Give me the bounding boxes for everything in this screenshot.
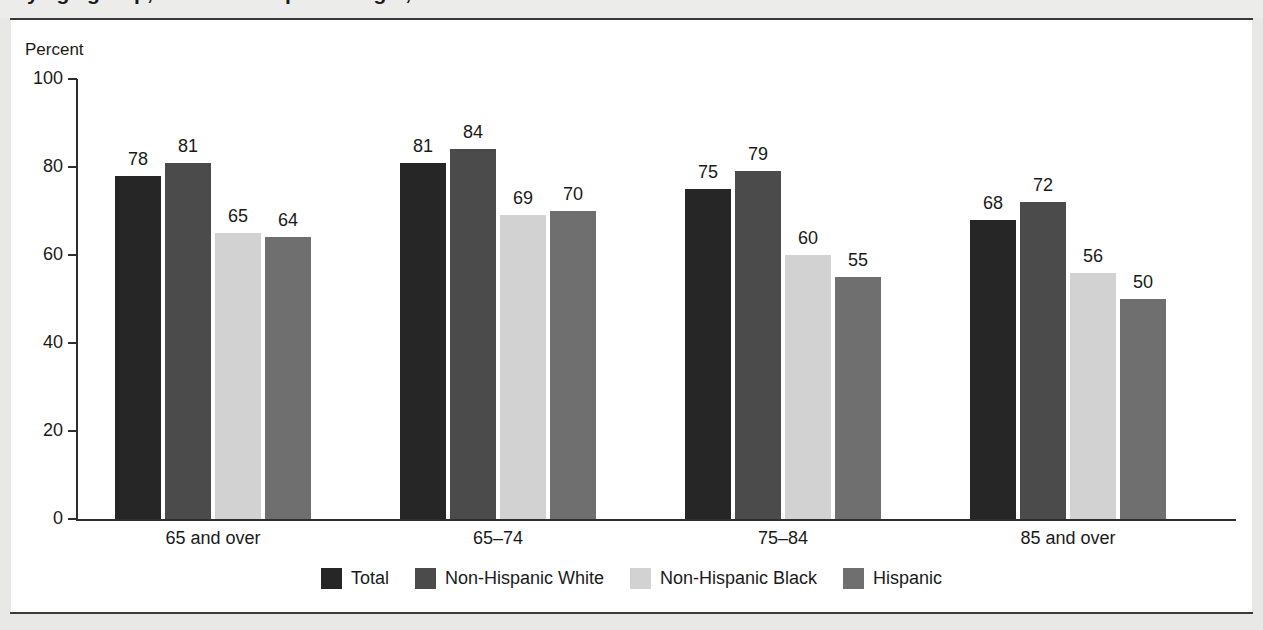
page-title: by age group, race and Hispanic origin, …	[14, 0, 464, 5]
cropped-title-strip: by age group, race and Hispanic origin, …	[0, 0, 1263, 18]
y-axis-tick-label-text: 80	[17, 156, 63, 177]
bar	[1120, 299, 1166, 519]
y-axis-tick	[68, 518, 77, 520]
bar	[115, 176, 161, 519]
y-axis-tick	[68, 78, 77, 80]
bar-value-label: 64	[251, 210, 325, 231]
y-axis-tick-label-text: 0	[17, 508, 63, 529]
bar-value-label: 55	[821, 250, 895, 271]
y-axis-tick-label-text: 20	[17, 420, 63, 441]
bar	[970, 220, 1016, 519]
x-axis-category-label: 65 and over	[55, 528, 371, 549]
x-axis-line	[76, 519, 1236, 521]
bar	[215, 233, 261, 519]
y-axis-tick-label-text: 60	[17, 244, 63, 265]
bar-value-label: 70	[536, 184, 610, 205]
x-axis-category-label: 85 and over	[910, 528, 1226, 549]
legend-item-label: Hispanic	[873, 568, 942, 589]
y-axis-tick-label-text: 100	[17, 68, 63, 89]
bar-value-label: 56	[1056, 246, 1130, 267]
chart-panel: Percent 0204060801007881656465 and over8…	[11, 20, 1252, 612]
bar	[685, 189, 731, 519]
divider-bottom	[10, 612, 1253, 614]
legend-swatch-icon	[630, 568, 651, 589]
bar	[500, 215, 546, 519]
bar-value-label: 81	[151, 136, 225, 157]
bar-value-label: 60	[771, 228, 845, 249]
bar-value-label: 79	[721, 144, 795, 165]
legend-item[interactable]: Non-Hispanic Black	[630, 568, 817, 589]
bar	[835, 277, 881, 519]
bar	[1070, 273, 1116, 519]
y-axis-tick-label-text: 40	[17, 332, 63, 353]
bar	[785, 255, 831, 519]
legend-swatch-icon	[415, 568, 436, 589]
y-axis-line	[76, 79, 78, 520]
y-axis-tick	[68, 254, 77, 256]
bar	[550, 211, 596, 519]
legend-item-label: Total	[351, 568, 389, 589]
bar-value-label: 84	[436, 122, 510, 143]
x-axis-category-label: 75–84	[625, 528, 941, 549]
legend-swatch-icon	[321, 568, 342, 589]
plot-area: 0204060801007881656465 and over818469706…	[11, 20, 1252, 612]
bar	[735, 171, 781, 519]
bar-value-label: 72	[1006, 175, 1080, 196]
x-axis-category-label: 65–74	[340, 528, 656, 549]
legend-item[interactable]: Hispanic	[843, 568, 942, 589]
y-axis-tick	[68, 166, 77, 168]
y-axis-tick	[68, 342, 77, 344]
legend-item[interactable]: Non-Hispanic White	[415, 568, 604, 589]
legend-item[interactable]: Total	[321, 568, 389, 589]
legend-swatch-icon	[843, 568, 864, 589]
bar	[400, 163, 446, 519]
bar	[265, 237, 311, 519]
bar-value-label: 50	[1106, 272, 1180, 293]
legend-item-label: Non-Hispanic White	[445, 568, 604, 589]
chart-legend: TotalNon-Hispanic WhiteNon-Hispanic Blac…	[11, 568, 1252, 589]
y-axis-tick	[68, 430, 77, 432]
legend-item-label: Non-Hispanic Black	[660, 568, 817, 589]
